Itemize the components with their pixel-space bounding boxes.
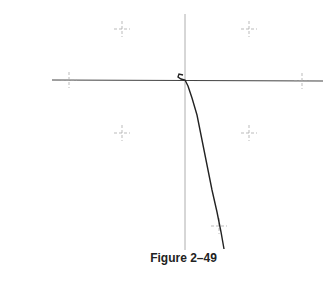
figure-caption-wrap: Figure 2–49 xyxy=(0,251,335,265)
figure-caption: Figure 2–49 xyxy=(150,251,217,265)
nyquist-plot xyxy=(0,0,335,282)
grid-markers xyxy=(61,21,310,234)
real-axis xyxy=(52,80,323,81)
